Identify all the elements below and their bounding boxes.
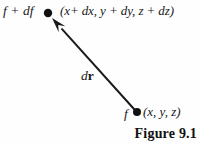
- figure-caption: Figure 9.1: [0, 126, 197, 142]
- label-vector-dr: dr: [81, 69, 94, 83]
- vector-r-symbol: r: [88, 68, 94, 83]
- label-displaced-coordinates: (x+ dx, y + dy, z + dz): [60, 4, 174, 17]
- point-marker-displaced: [44, 9, 52, 17]
- label-displaced-scalar: f + df: [3, 4, 34, 18]
- point-marker-base: [133, 108, 141, 116]
- label-base-coordinates: (x, y, z): [143, 105, 181, 118]
- label-base-scalar: f: [124, 107, 128, 121]
- vector-differential-prefix: d: [81, 68, 88, 83]
- vector-diagram: [0, 0, 201, 145]
- vector-dr-line: [62, 29, 134, 109]
- figure-9-1: f + df (x+ dx, y + dy, z + dz) dr f (x, …: [0, 0, 201, 145]
